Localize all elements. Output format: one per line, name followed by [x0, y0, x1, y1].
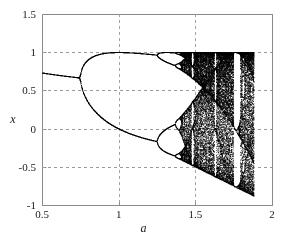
x-tick-label-0.5: 0.5 [35, 209, 49, 220]
x-tick-label-1.5: 1.5 [188, 209, 202, 220]
y-axis-title: x [6, 113, 20, 125]
y-tick-label-1.5: 1.5 [0, 9, 36, 20]
bifurcation-plot-canvas [0, 0, 287, 242]
y-tick-label-minus-0.5: -0.5 [0, 161, 36, 172]
x-tick-label-2: 2 [269, 209, 275, 220]
y-tick-label-0.5: 0.5 [0, 85, 36, 96]
y-tick-label-minus-1: -1 [0, 200, 36, 211]
x-axis-title: a [0, 222, 287, 234]
x-tick-label-1: 1 [116, 209, 122, 220]
y-tick-label-1: 1 [0, 47, 36, 58]
bifurcation-diagram-figure: 1.5 1 0.5 0 -0.5 -1 0.5 1 1.5 2 a x [0, 0, 287, 242]
